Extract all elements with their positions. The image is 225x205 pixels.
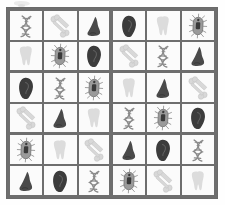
nose-icon — [81, 13, 107, 39]
nose-icon — [116, 137, 142, 163]
grid-cell-r1c6[interactable] — [182, 11, 214, 40]
ear-icon — [47, 168, 73, 194]
grid-cell-r1c3[interactable] — [79, 11, 110, 40]
bone-icon — [116, 43, 142, 69]
bacteria-icon — [47, 43, 73, 69]
ear-icon — [81, 43, 107, 69]
grid-cell-r5c6[interactable] — [182, 135, 214, 164]
nose-icon — [47, 105, 73, 131]
grid-cell-r3c3[interactable] — [79, 73, 110, 102]
tooth-icon — [81, 105, 107, 131]
nose-icon — [185, 43, 211, 69]
nose-icon — [150, 75, 176, 101]
bone-icon — [13, 105, 39, 131]
grid-cell-r6c6[interactable] — [182, 166, 214, 195]
tooth-icon — [116, 75, 142, 101]
dna-icon — [185, 137, 211, 163]
bacteria-icon — [150, 105, 176, 131]
dna-icon — [150, 43, 176, 69]
grid-cell-r2c6[interactable] — [182, 42, 214, 70]
bone-icon — [81, 137, 107, 163]
grid-cell-r5c4[interactable] — [113, 135, 145, 164]
ear-icon — [13, 75, 39, 101]
bacteria-icon — [13, 137, 39, 163]
grid-cell-r3c2[interactable] — [44, 73, 76, 102]
dna-icon — [116, 105, 142, 131]
grid-cell-r5c5[interactable] — [147, 135, 179, 164]
sudoku-grid-frame — [6, 7, 218, 199]
grid-cell-r6c1[interactable] — [10, 166, 42, 195]
grid-cell-r5c3[interactable] — [79, 135, 110, 164]
grid-cell-r4c5[interactable] — [147, 104, 179, 132]
grid-cell-r6c2[interactable] — [44, 166, 76, 195]
puzzle-page — [0, 0, 225, 205]
ear-icon — [185, 105, 211, 131]
grid-cell-r3c1[interactable] — [10, 73, 42, 102]
tooth-icon — [185, 168, 211, 194]
dna-icon — [13, 13, 39, 39]
grid-cell-r4c3[interactable] — [79, 104, 110, 132]
grid-cell-r1c1[interactable] — [10, 11, 42, 40]
grid-cell-r6c3[interactable] — [79, 166, 110, 195]
grid-cell-r2c1[interactable] — [10, 42, 42, 70]
ear-icon — [116, 13, 142, 39]
bacteria-icon — [116, 168, 142, 194]
bone-icon — [150, 168, 176, 194]
nose-icon — [13, 168, 39, 194]
grid-cell-r4c4[interactable] — [113, 104, 145, 132]
grid-cell-r2c2[interactable] — [44, 42, 76, 70]
grid-cell-r4c1[interactable] — [10, 104, 42, 132]
grid-cell-r6c5[interactable] — [147, 166, 179, 195]
grid-cell-r5c2[interactable] — [44, 135, 76, 164]
sudoku-grid — [10, 11, 214, 195]
bacteria-icon — [185, 13, 211, 39]
grid-cell-r1c4[interactable] — [113, 11, 145, 40]
grid-cell-r3c4[interactable] — [113, 73, 145, 102]
bacteria-icon — [81, 75, 107, 101]
grid-cell-r1c2[interactable] — [44, 11, 76, 40]
grid-cell-r2c3[interactable] — [79, 42, 110, 70]
grid-cell-r3c5[interactable] — [147, 73, 179, 102]
grid-cell-r4c2[interactable] — [44, 104, 76, 132]
grid-cell-r1c5[interactable] — [147, 11, 179, 40]
dna-icon — [81, 168, 107, 194]
grid-cell-r2c4[interactable] — [113, 42, 145, 70]
grid-cell-r3c6[interactable] — [182, 73, 214, 102]
grid-cell-r2c5[interactable] — [147, 42, 179, 70]
grid-cell-r6c4[interactable] — [113, 166, 145, 195]
grid-cell-r5c1[interactable] — [10, 135, 42, 164]
ear-icon — [150, 137, 176, 163]
bone-icon — [47, 13, 73, 39]
grid-cell-r4c6[interactable] — [182, 104, 214, 132]
tooth-icon — [150, 13, 176, 39]
tooth-icon — [13, 43, 39, 69]
dna-icon — [47, 75, 73, 101]
bone-icon — [185, 75, 211, 101]
tooth-icon — [47, 137, 73, 163]
